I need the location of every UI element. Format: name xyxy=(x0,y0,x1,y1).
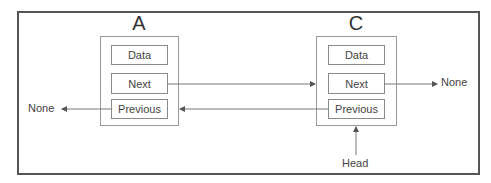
edges-layer xyxy=(0,0,491,183)
